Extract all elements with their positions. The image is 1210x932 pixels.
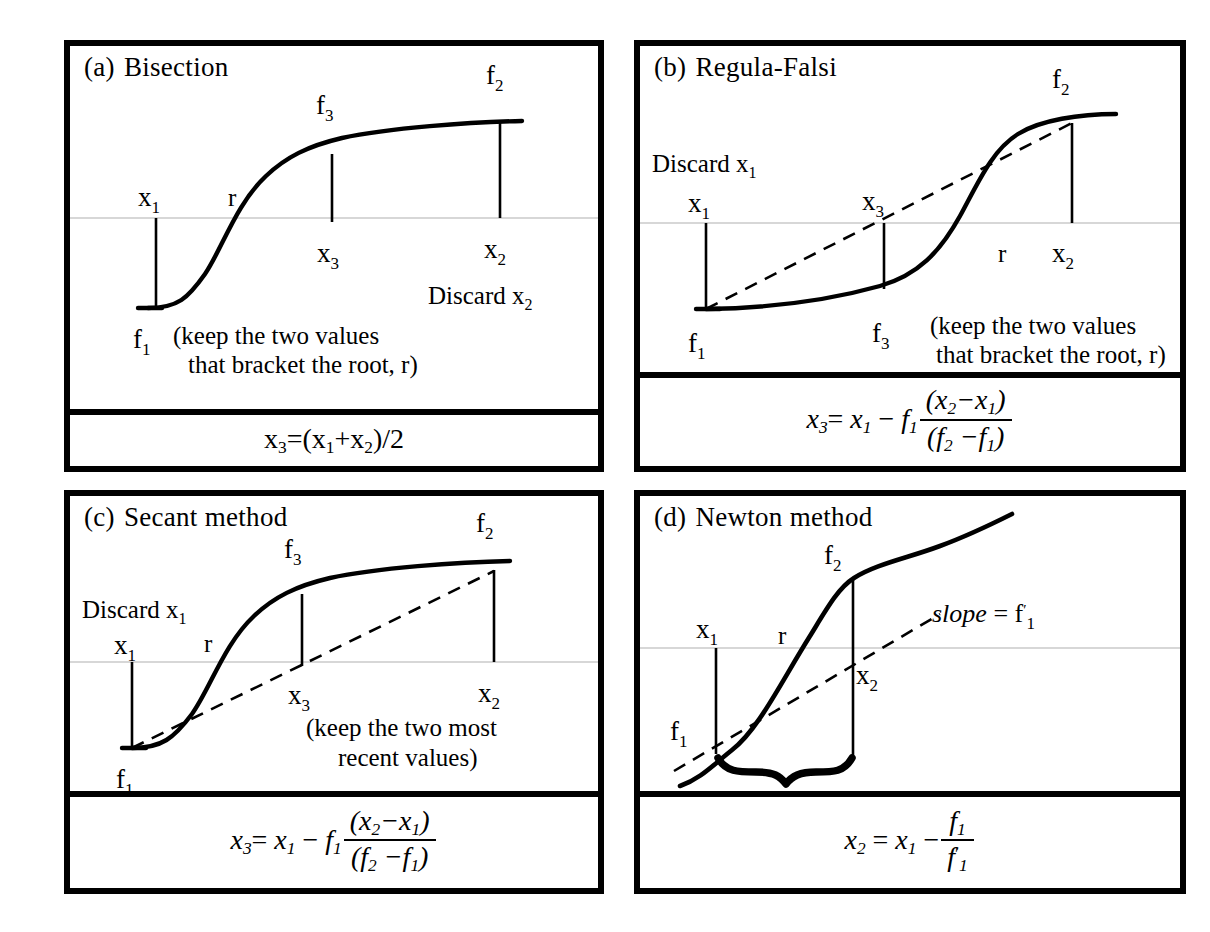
panel-c-plot-area: (c)Secant method Discard x1 x1 r f3 f2 bbox=[70, 496, 598, 791]
label-r: r bbox=[204, 630, 213, 657]
panel-c-diagram: Discard x1 x1 r f3 f2 x3 x2 f1 (keep the… bbox=[70, 496, 598, 791]
label-x3: x3 bbox=[288, 680, 310, 715]
panel-b-plot-area: (b)Regula-Falsi Discard x1 x1 x3 f2 r bbox=[640, 46, 1180, 372]
panel-b-formula-bar: x3= x1 − f1(x2−x1)(f2 −f1) bbox=[640, 372, 1180, 466]
label-f1: f1 bbox=[670, 716, 688, 751]
label-x2: x2 bbox=[484, 234, 506, 269]
panel-d-diagram: x1 r f2 x2 f1 δ slope = f′1 bbox=[640, 496, 1180, 791]
panel-d-plot-area: (d)Newton method x1 r f2 x2 f1 δ bbox=[640, 496, 1180, 791]
label-x2: x2 bbox=[856, 660, 878, 695]
panel-a-diagram: x1 r f3 f2 x3 x2 f1 Discard x2 (keep the… bbox=[70, 46, 598, 409]
panel-a-formula-bar: x3=(x1+x2)/2 bbox=[70, 409, 598, 466]
panel-secant-method: (c)Secant method Discard x1 x1 r f3 f2 bbox=[64, 490, 604, 894]
label-x1: x1 bbox=[138, 182, 160, 217]
label-f3: f3 bbox=[284, 534, 302, 569]
formula-regula-falsi: x3= x1 − f1(x2−x1)(f2 −f1) bbox=[806, 388, 1013, 455]
function-curve bbox=[680, 514, 1012, 786]
label-x1: x1 bbox=[688, 188, 710, 223]
panel-a-plot-area: (a)Bisection x1 r f3 f2 x3 x2 bbox=[70, 46, 598, 409]
function-curve bbox=[706, 114, 1116, 309]
label-x3: x3 bbox=[317, 238, 339, 273]
label-f3: f3 bbox=[316, 90, 334, 125]
label-x3: x3 bbox=[862, 186, 884, 221]
note-keep-line2: that bracket the root, r) bbox=[188, 351, 418, 379]
note-keep-line2: recent values) bbox=[338, 744, 478, 772]
delta-brace bbox=[718, 758, 852, 784]
label-f1: f1 bbox=[688, 328, 706, 363]
label-x1: x1 bbox=[696, 614, 718, 649]
note-keep-line1: (keep the two values bbox=[930, 312, 1136, 340]
formula-secant: x3= x1 − f1(x2−x1)(f2 −f1) bbox=[230, 809, 437, 876]
panel-d-formula-bar: x2 = x1 −f1f′1 bbox=[640, 791, 1180, 888]
label-f2: f2 bbox=[486, 60, 504, 95]
label-x2: x2 bbox=[478, 678, 500, 713]
label-x1: x1 bbox=[114, 630, 136, 665]
note-keep-line2: that bracket the root, r) bbox=[936, 341, 1166, 369]
label-f2: f2 bbox=[1052, 64, 1070, 99]
label-f3: f3 bbox=[872, 318, 890, 353]
function-curve bbox=[148, 121, 522, 308]
formula-newton: x2 = x1 −f1f′1 bbox=[844, 809, 975, 876]
label-r: r bbox=[228, 184, 237, 211]
note-keep-line1: (keep the two values bbox=[173, 322, 379, 350]
label-r: r bbox=[998, 240, 1007, 267]
label-f1: f1 bbox=[133, 324, 151, 359]
formula-bisection: x3=(x1+x2)/2 bbox=[264, 425, 404, 456]
note-slope: slope = f′1 bbox=[932, 599, 1035, 633]
note-keep-line1: (keep the two most bbox=[306, 714, 497, 742]
note-discard: Discard x1 bbox=[82, 596, 187, 627]
figure-grid: (a)Bisection x1 r f3 f2 x3 x2 bbox=[0, 0, 1210, 932]
label-r: r bbox=[778, 622, 787, 649]
label-f2: f2 bbox=[476, 508, 494, 543]
panel-c-formula-bar: x3= x1 − f1(x2−x1)(f2 −f1) bbox=[70, 791, 598, 888]
note-discard: Discard x1 bbox=[652, 150, 757, 181]
panel-b-diagram: Discard x1 x1 x3 f2 r x2 f3 f1 (keep the… bbox=[640, 46, 1180, 372]
label-x2: x2 bbox=[1052, 238, 1074, 273]
panel-bisection: (a)Bisection x1 r f3 f2 x3 x2 bbox=[64, 40, 604, 472]
panel-regula-falsi: (b)Regula-Falsi Discard x1 x1 x3 f2 r bbox=[634, 40, 1186, 472]
label-f1: f1 bbox=[116, 764, 134, 791]
note-discard: Discard x2 bbox=[428, 282, 533, 313]
panel-newton-method: (d)Newton method x1 r f2 x2 f1 δ bbox=[634, 490, 1186, 894]
label-f2: f2 bbox=[824, 540, 842, 575]
